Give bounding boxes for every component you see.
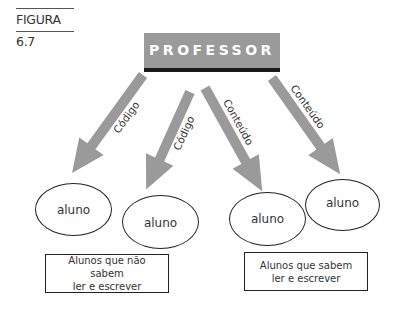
student-node-2: aluno	[122, 195, 199, 249]
student-node-3: aluno	[229, 192, 306, 246]
arrow-conteudo-1: Conteúdo	[192, 79, 279, 199]
group-label-line2: ler e escrever	[50, 280, 164, 293]
arrow-conteudo-2: Conteúdo	[260, 67, 356, 183]
group-box-can-read: Alunos que sabem ler e escrever	[244, 252, 368, 291]
student-node-1: aluno	[35, 183, 112, 236]
student-label: aluno	[57, 203, 90, 217]
arrow-codigo-1: Código	[60, 66, 157, 183]
group-label-line1: Alunos que não sabem	[50, 254, 164, 280]
arrow-codigo-2: Código	[132, 86, 205, 197]
student-label: aluno	[144, 216, 177, 230]
student-label: aluno	[326, 196, 359, 210]
student-label: aluno	[251, 212, 284, 226]
student-node-4: aluno	[305, 179, 380, 231]
group-box-cannot-read: Alunos que não sabem ler e escrever	[45, 254, 169, 293]
group-label-line2: ler e escrever	[260, 272, 352, 285]
group-label-line1: Alunos que sabem	[260, 259, 352, 272]
